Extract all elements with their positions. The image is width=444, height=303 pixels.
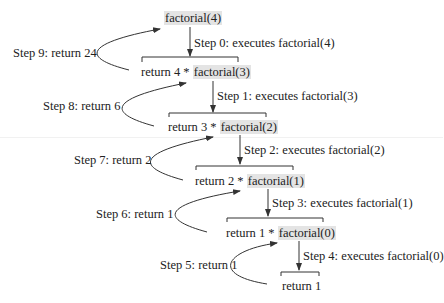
return-prefix: return 3 *: [168, 120, 220, 134]
call-factorial-4: factorial(4): [164, 11, 222, 25]
step-0-label: Step 0: executes factorial(4): [194, 36, 335, 50]
call-factorial-1: factorial(1): [247, 174, 305, 188]
base-case-return: return 1: [282, 279, 321, 293]
step-9-label: Step 9: return 24: [13, 46, 97, 60]
step-4-label: Step 4: executes factorial(0): [303, 249, 444, 263]
return-prefix: return 4 *: [141, 65, 193, 79]
call-factorial-2: factorial(2): [220, 120, 278, 134]
return-expression-2: return 2 * factorial(1): [195, 174, 305, 188]
step-5-label: Step 5: return 1: [160, 258, 237, 272]
step-1-label: Step 1: executes factorial(3): [217, 89, 358, 103]
call-factorial-0: factorial(0): [278, 226, 336, 240]
return-prefix: return 2 *: [195, 174, 247, 188]
call-factorial-3: factorial(3): [193, 65, 251, 79]
step-3-label: Step 3: executes factorial(1): [272, 196, 413, 210]
return-expression-3: return 3 * factorial(2): [168, 120, 278, 134]
initial-call: factorial(4): [164, 11, 222, 25]
return-expression-1: return 1 * factorial(0): [226, 226, 336, 240]
step-8-label: Step 8: return 6: [43, 99, 120, 113]
step-7-label: Step 7: return 2: [74, 153, 151, 167]
step-2-label: Step 2: executes factorial(2): [244, 143, 385, 157]
step-6-label: Step 6: return 1: [96, 207, 173, 221]
return-prefix: return 1 *: [226, 226, 278, 240]
return-expression-4: return 4 * factorial(3): [141, 65, 251, 79]
